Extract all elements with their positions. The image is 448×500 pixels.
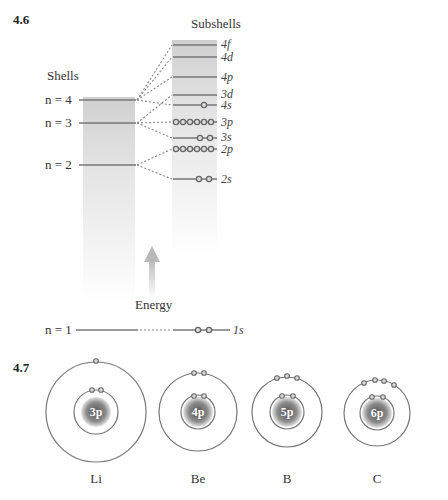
atom-label-be: Be (178, 471, 218, 487)
energy-label: Energy (135, 297, 172, 313)
shell-label-n4: n = 4 (45, 92, 72, 108)
subshell-label-2p: 2p (221, 142, 233, 157)
shell-label-n2: n = 2 (45, 157, 72, 173)
subshell-label-4p: 4p (221, 70, 233, 85)
subshell-label-1s: 1s (233, 323, 244, 338)
shell-label-n1: n = 1 (45, 322, 72, 338)
li-nucleus: 3p (81, 397, 111, 427)
atom-label-c: C (357, 471, 397, 487)
energy-arrow-icon (144, 246, 160, 298)
subshell-label-2s: 2s (221, 172, 232, 187)
c-nucleus: 6p (362, 398, 392, 428)
figure-number-4-7: 4.7 (13, 360, 29, 376)
shell-label-n3: n = 3 (45, 115, 72, 131)
be-nucleus: 4p (183, 397, 213, 427)
atom-label-b: B (267, 471, 307, 487)
subshell-label-3p: 3p (221, 115, 233, 130)
subshell-label-4d: 4d (221, 50, 233, 65)
atom-label-li: Li (76, 471, 116, 487)
b-nucleus: 5p (272, 397, 302, 427)
shells-bar (83, 97, 135, 302)
subshell-label-4s: 4s (221, 98, 232, 113)
